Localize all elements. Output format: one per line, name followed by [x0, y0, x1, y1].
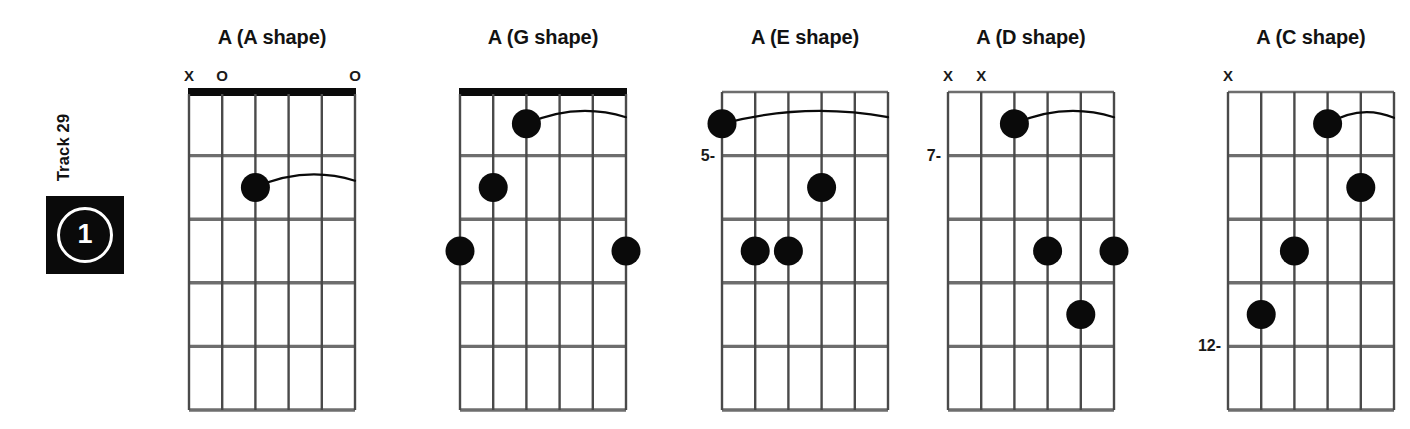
- finger-dot: [1033, 237, 1062, 266]
- fretboard: [722, 92, 888, 410]
- barre-arc: [1014, 111, 1114, 124]
- track-badge-block: Track 29 1: [38, 90, 134, 290]
- finger-dot: [1100, 237, 1129, 266]
- finger-dot: [1346, 173, 1375, 202]
- chord-diagram: A (G shape): [418, 0, 668, 429]
- chord-title: A (D shape): [906, 26, 1156, 49]
- finger-dot: [741, 237, 770, 266]
- barre-arc: [255, 174, 355, 187]
- chord-diagram: A (E shape)5-: [680, 0, 930, 429]
- fret-position-label: 12-: [1198, 337, 1228, 355]
- track-number-ring: 1: [57, 207, 113, 263]
- chord-title: A (C shape): [1186, 26, 1410, 49]
- fret-position-label: 7-: [927, 147, 948, 165]
- chord-diagram: A (D shape)XX7-: [906, 0, 1156, 429]
- finger-dot: [612, 237, 641, 266]
- chord-title: A (E shape): [680, 26, 930, 49]
- fret-position-label: 5-: [701, 147, 722, 165]
- track-number-text: 1: [77, 221, 92, 249]
- nut: [459, 88, 627, 96]
- fretboard: [948, 92, 1114, 410]
- finger-dot: [807, 173, 836, 202]
- finger-dot: [1066, 300, 1095, 329]
- track-number-badge: 1: [46, 196, 124, 274]
- barre-arc: [526, 111, 626, 124]
- chord-title: A (A shape): [147, 26, 397, 49]
- chord-diagram: A (A shape)XOO: [147, 0, 397, 429]
- chord-diagram: A (C shape)X12-: [1186, 0, 1410, 429]
- nut: [188, 88, 356, 96]
- finger-dot: [1247, 300, 1276, 329]
- finger-dot: [1280, 237, 1309, 266]
- barre-arc: [722, 111, 888, 124]
- finger-dot: [512, 109, 541, 138]
- finger-dot: [1000, 109, 1029, 138]
- fretboard: [189, 92, 355, 410]
- finger-dot: [446, 237, 475, 266]
- chord-title: A (G shape): [418, 26, 668, 49]
- finger-dot: [479, 173, 508, 202]
- fretboard: [1228, 92, 1394, 410]
- finger-dot: [241, 173, 270, 202]
- fretboard: [460, 92, 626, 410]
- track-label: Track 29: [54, 93, 73, 203]
- finger-dot: [774, 237, 803, 266]
- finger-dot: [1313, 109, 1342, 138]
- finger-dot: [708, 109, 737, 138]
